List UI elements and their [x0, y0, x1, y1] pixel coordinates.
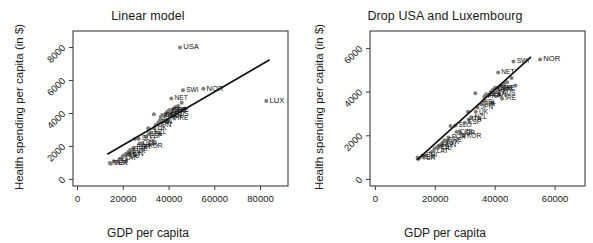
- y-tick-label: 4000: [342, 87, 365, 110]
- x-tick-label: 40000: [482, 193, 508, 204]
- data-point-label: NOR: [543, 54, 560, 63]
- data-point-label: SWI: [517, 57, 530, 64]
- data-point: [178, 45, 182, 49]
- y-tick-label: 8000: [45, 42, 68, 65]
- figure-two-panel-scatter: Linear model Health spending per capita …: [0, 0, 593, 243]
- data-point-label: IRE: [178, 114, 190, 121]
- y-tick-label: 2000: [342, 130, 365, 153]
- y-tick-label: 0: [353, 174, 365, 186]
- data-point: [496, 70, 500, 74]
- x-tick-label: 60000: [202, 193, 228, 204]
- y-tick-label: 6000: [45, 75, 68, 98]
- x-tick-label: 20000: [110, 193, 136, 204]
- scatter-plot-left: 02000040000600008000002000400060008000ME…: [0, 0, 296, 243]
- y-tick-label: 6000: [342, 43, 365, 66]
- data-point: [181, 88, 185, 92]
- data-point: [538, 57, 542, 61]
- scatter-plot-right: 02000040000600000200040006000MEXTURCHIPO…: [297, 0, 593, 243]
- x-tick-label: 0: [373, 193, 378, 204]
- data-point: [152, 112, 156, 116]
- data-point-label: NET: [501, 68, 514, 75]
- x-axis-label-left: GDP per capita: [0, 226, 296, 240]
- x-tick-label: 80000: [247, 193, 273, 204]
- panel-drop-usa-luxembourg: Drop USA and Luxembourg Health spending …: [297, 0, 593, 243]
- data-point: [201, 87, 205, 91]
- data-point-label: CZE: [460, 128, 474, 135]
- data-point-label: NOR: [207, 84, 224, 93]
- data-point: [169, 97, 173, 101]
- panel-linear-model: Linear model Health spending per capita …: [0, 0, 296, 243]
- data-point-labels-group: MEXTURCHIPOLESTLATHUNSVKGREPORKORISRCZES…: [113, 42, 284, 166]
- data-point-labels-group: MEXTURCHIPOLESTLATHUNSVKGREPORKORISRCZES…: [421, 54, 561, 161]
- data-point: [511, 60, 515, 64]
- data-point-label: LUX: [269, 96, 284, 105]
- data-point: [473, 91, 477, 95]
- data-point: [264, 99, 268, 103]
- y-tick-label: 0: [56, 174, 68, 186]
- data-point-label: NET: [175, 94, 188, 101]
- y-tick-label: 4000: [45, 108, 68, 131]
- data-point-label: SWI: [186, 86, 199, 93]
- x-axis-label-right: GDP per capita: [297, 226, 593, 240]
- data-point-label: IRE: [505, 94, 517, 101]
- x-tick-label: 60000: [542, 193, 568, 204]
- x-tick-label: 0: [75, 193, 80, 204]
- x-tick-label: 40000: [156, 193, 182, 204]
- x-tick-label: 20000: [422, 193, 448, 204]
- y-tick-label: 2000: [45, 141, 68, 164]
- data-point-label: USA: [183, 42, 200, 51]
